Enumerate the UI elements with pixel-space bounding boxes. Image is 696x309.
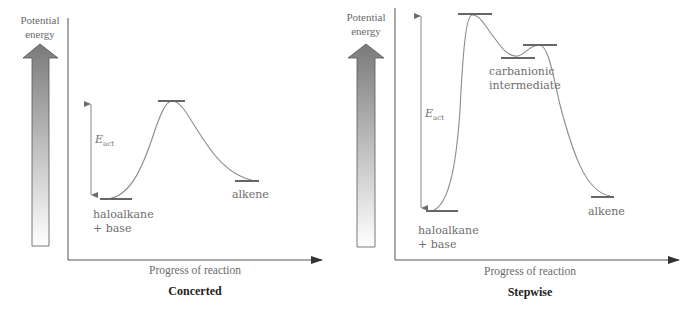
energy-curve <box>108 101 255 199</box>
product-label: alkene <box>588 205 625 218</box>
product-label: alkene <box>232 188 269 201</box>
panel-caption: Stepwise <box>508 285 553 299</box>
intermediate-label-line2: intermediate <box>489 79 561 92</box>
reactant-label-line1: haloalkane <box>93 208 154 221</box>
y-axis-label-line1: Potential <box>346 11 385 23</box>
potential-energy-arrow-icon <box>23 44 58 246</box>
reactant-label-line2: + base <box>93 222 131 235</box>
reactant-label-line1: haloalkane <box>418 224 479 237</box>
potential-energy-arrow-icon <box>348 44 384 247</box>
activation-energy-label: Eact <box>424 107 444 122</box>
y-axis-label-line2: energy <box>25 28 55 40</box>
y-axis-label-line1: Potential <box>20 14 59 26</box>
panel-concerted: Potential energy Eact haloalkane + base … <box>20 14 322 298</box>
energy-curve <box>432 15 610 211</box>
intermediate-label-line1: carbanionic <box>489 65 555 78</box>
x-axis-label: Progress of reaction <box>484 265 576 278</box>
x-axis-label: Progress of reaction <box>149 264 241 277</box>
y-axis-label-line2: energy <box>351 25 381 37</box>
activation-energy-label: Eact <box>94 133 114 148</box>
panel-stepwise: Potential energy Eact carbanionic interm… <box>346 8 679 299</box>
energy-diagram: Potential energy Eact haloalkane + base … <box>0 0 696 309</box>
reactant-label-line2: + base <box>418 238 456 251</box>
panel-caption: Concerted <box>168 284 222 298</box>
